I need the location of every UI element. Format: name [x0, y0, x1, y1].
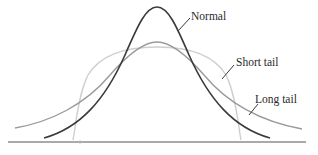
normal-curve: [44, 7, 270, 138]
long-tail-label: Long tail: [255, 93, 297, 106]
short-tail-label: Short tail: [236, 56, 279, 68]
distribution-diagram: Normal Short tail Long tail: [0, 0, 318, 155]
short-tail-curve: [73, 47, 241, 140]
normal-label: Normal: [191, 10, 226, 22]
normal-leader-line: [178, 18, 190, 31]
